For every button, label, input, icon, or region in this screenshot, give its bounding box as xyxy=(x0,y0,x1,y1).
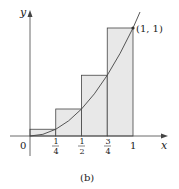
svg-text:1: 1 xyxy=(80,137,85,146)
rectangle-1 xyxy=(30,129,56,136)
riemann-sum-diagram: y (1, 1) 0 x 1 4 1 2 3 4 1 (b) xyxy=(0,0,179,189)
point-1-1 xyxy=(131,26,134,29)
tick-half: 1 2 xyxy=(78,137,85,156)
point-label: (1, 1) xyxy=(136,23,163,34)
x-axis-label: x xyxy=(161,139,168,152)
svg-text:2: 2 xyxy=(80,147,85,156)
y-axis-label: y xyxy=(19,6,27,19)
svg-text:4: 4 xyxy=(54,147,59,156)
x-tick-labels: 1 4 1 2 3 4 xyxy=(52,137,111,156)
x-axis-arrow-icon xyxy=(161,134,168,139)
y-axis-arrow-icon xyxy=(28,10,33,17)
tick-quarter: 1 4 xyxy=(52,137,59,156)
x-end-label: 1 xyxy=(130,140,136,151)
svg-text:3: 3 xyxy=(106,137,111,146)
svg-text:4: 4 xyxy=(106,147,111,156)
tick-three-quarters: 3 4 xyxy=(104,137,111,156)
origin-label: 0 xyxy=(20,140,26,151)
rectangle-4 xyxy=(107,28,133,136)
riemann-rectangles xyxy=(30,28,133,136)
rectangle-3 xyxy=(82,75,108,136)
figure-caption: (b) xyxy=(80,172,94,183)
svg-text:1: 1 xyxy=(54,137,59,146)
